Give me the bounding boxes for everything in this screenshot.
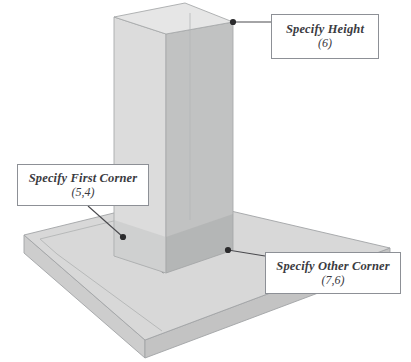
anchor-dot-first-corner [120, 234, 126, 240]
callout-value: (6) [318, 37, 332, 50]
callout-title: Specify Other Corner [276, 259, 389, 273]
callout-value: (5,4) [72, 186, 95, 199]
callout-title: Specify Height [286, 22, 364, 36]
callout-specify-first-corner: Specify First Corner (5,4) [17, 164, 149, 206]
callout-title: Specify First Corner [29, 171, 138, 185]
callout-specify-height: Specify Height (6) [271, 14, 379, 59]
callout-specify-other-corner: Specify Other Corner (7,6) [265, 252, 401, 294]
anchor-dot-height [230, 19, 236, 25]
anchor-dot-other-corner [225, 247, 231, 253]
callout-value: (7,6) [322, 274, 345, 287]
diagram-canvas: Specify Height (6) Specify First Corner … [0, 0, 411, 362]
